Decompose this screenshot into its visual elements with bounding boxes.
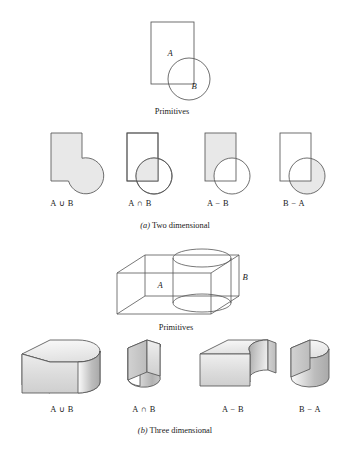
primitives-2d-caption: Primitives	[155, 107, 189, 116]
primitive-2d-label-b: B	[191, 81, 197, 91]
primitives-2d-group: A B Primitives	[151, 22, 210, 116]
caption-b-enum: (b)	[138, 426, 148, 435]
figure-root: A B Primitives A ∪ B A ∩ B A − B B − A (	[0, 0, 350, 450]
result-3d-b-minus-a-label: B − A	[299, 405, 321, 414]
result-2d-union: A ∪ B	[50, 133, 103, 208]
intersection-3d-right-face	[147, 340, 160, 376]
result-3d-b-minus-a: B − A	[291, 340, 329, 414]
result-2d-union-label: A ∪ B	[50, 199, 73, 208]
caption-b-text: Three dimensional	[148, 426, 213, 435]
primitive-3d-box-edge-tr	[211, 255, 239, 273]
result-3d-union-label: A ∪ B	[50, 405, 73, 414]
primitive-3d-cylinder-bottom-ellipse	[173, 294, 231, 312]
primitives-3d-group: A B Primitives	[117, 249, 248, 332]
primitive-3d-box-edge-tl	[117, 255, 145, 273]
caption-b: (b) Three dimensional	[138, 426, 213, 435]
result-3d-union: A ∪ B	[22, 340, 100, 414]
result-2d-b-minus-a-label: B − A	[283, 199, 305, 208]
result-2d-intersection: A ∩ B	[127, 133, 172, 208]
primitive-3d-label-b: B	[242, 272, 248, 282]
union-2d-shape	[51, 133, 104, 194]
result-3d-a-minus-b-label: A − B	[222, 405, 244, 414]
result-3d-intersection-label: A ∩ B	[132, 405, 155, 414]
primitive-2d-circle-b	[168, 58, 210, 100]
boolean-operations-figure: A B Primitives A ∪ B A ∩ B A − B B − A (	[0, 0, 350, 450]
a-minus-b-3d-concave-surface	[249, 340, 268, 382]
result-3d-intersection: A ∩ B	[128, 340, 160, 414]
caption-a: (a) Two dimensional	[140, 221, 210, 230]
result-2d-a-minus-b: A − B	[205, 133, 250, 208]
a-minus-b-3d-back-wall	[268, 340, 276, 373]
result-3d-a-minus-b: A − B	[200, 340, 276, 414]
primitive-2d-label-a: A	[166, 48, 173, 58]
a-minus-b-2d-shaded-region	[205, 133, 236, 181]
a-minus-b-3d-front-face	[200, 354, 250, 386]
primitive-3d-box-edge-bl	[117, 296, 145, 314]
primitive-3d-cylinder-top-ellipse	[173, 249, 231, 267]
result-2d-a-minus-b-label: A − B	[207, 199, 229, 208]
result-2d-intersection-label: A ∩ B	[128, 199, 151, 208]
primitive-3d-box-front-face	[117, 273, 211, 314]
result-2d-b-minus-a: B − A	[280, 133, 325, 208]
caption-a-enum: (a)	[140, 221, 150, 230]
primitives-3d-caption: Primitives	[159, 323, 193, 332]
primitive-3d-label-a: A	[156, 280, 163, 290]
caption-a-text: Two dimensional	[150, 221, 210, 230]
